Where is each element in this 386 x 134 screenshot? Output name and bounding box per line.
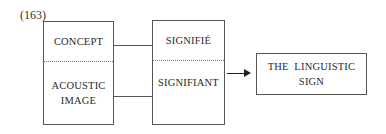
signifie-label: SIGNIFIÉ [166,33,211,48]
acoustic-label: ACOUSTIC [51,78,105,93]
linguistic-sign-cell: THE LINGUISTIC SIGN [257,54,366,94]
linguistic-sign-line2: SIGN [299,74,324,89]
signifiant-cell: SIGNIFIANT [153,61,224,104]
linguistic-sign-box: THE LINGUISTIC SIGN [256,53,367,95]
arrow-head-icon [244,69,251,77]
signifiant-label: SIGNIFIANT [158,75,219,90]
signifie-signifiant-box: SIGNIFIÉ SIGNIFIANT [152,20,225,125]
acoustic-image-cell: ACOUSTIC IMAGE [44,62,113,124]
concept-cell: CONCEPT [44,22,113,61]
arrow-shaft [227,73,245,74]
linguistic-sign-line1: THE LINGUISTIC [268,59,356,74]
image-label: IMAGE [61,93,96,108]
concept-acoustic-image-box: CONCEPT ACOUSTIC IMAGE [43,21,114,125]
concept-label: CONCEPT [54,34,103,49]
connector-line-lower [114,96,152,97]
connector-line-upper [114,45,152,46]
signifie-cell: SIGNIFIÉ [153,21,224,60]
